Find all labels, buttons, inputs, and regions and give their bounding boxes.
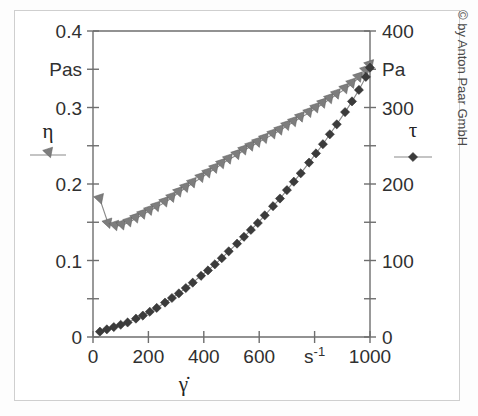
right-axis-tick-label: 0	[382, 327, 393, 348]
chart-axes	[87, 31, 376, 343]
data-point-marker	[325, 130, 334, 139]
data-point-marker	[408, 152, 417, 161]
chart-canvas: 00.10.20.30.4Pas0100200300400Pa020040060…	[0, 0, 478, 416]
right-axis-tick-label: 100	[382, 251, 414, 272]
data-point-marker	[354, 85, 363, 94]
data-point-marker	[347, 97, 356, 106]
data-point-marker	[318, 140, 327, 149]
data-point-marker	[340, 107, 349, 116]
data-point-marker	[94, 193, 107, 205]
left-axis-tick-label: 0.4	[56, 21, 83, 42]
legend-label-tau: τ	[409, 118, 417, 142]
copyright-text: © by Anton Paar GmbH	[455, 10, 470, 146]
data-point-marker	[304, 158, 313, 167]
left-axis-unit-label: Pas	[49, 59, 82, 80]
data-point-marker	[332, 120, 341, 129]
copyright-notice: © by Anton Paar GmbH	[450, 6, 476, 216]
rheology-figure: 00.10.20.30.4Pas0100200300400Pa020040060…	[0, 0, 478, 416]
x-axis-tick-label: 200	[133, 346, 165, 367]
data-point-marker	[167, 293, 176, 302]
right-axis-unit-label: Pa	[382, 59, 406, 80]
x-axis-tick-label: 0	[88, 346, 99, 367]
series-tau	[95, 63, 374, 336]
left-axis-tick-label: 0	[71, 327, 82, 348]
right-axis-tick-label: 200	[382, 174, 414, 195]
right-axis-tick-label: 400	[382, 21, 414, 42]
right-axis-tick-label: 300	[382, 98, 414, 119]
chart-axis-titles: γ̇	[178, 372, 190, 396]
data-point-marker	[174, 289, 183, 298]
data-point-marker	[311, 149, 320, 158]
x-axis-title: γ̇	[178, 372, 190, 396]
x-axis-tick-label: s-1	[304, 344, 325, 367]
left-axis-tick-label: 0.1	[56, 251, 82, 272]
data-point-marker	[43, 147, 56, 159]
x-axis-tick-label: 400	[188, 346, 220, 367]
chart-series	[94, 60, 377, 337]
series-eta	[94, 60, 377, 233]
left-axis-tick-label: 0.3	[56, 98, 82, 119]
x-axis-tick-label: 1000	[349, 346, 391, 367]
series-line	[100, 68, 370, 332]
data-point-marker	[160, 298, 169, 307]
data-point-marker	[181, 283, 190, 292]
legend-label-eta: η	[43, 119, 54, 143]
x-axis-tick-label: 600	[243, 346, 275, 367]
series-line	[100, 65, 370, 226]
left-axis-tick-label: 0.2	[56, 174, 82, 195]
